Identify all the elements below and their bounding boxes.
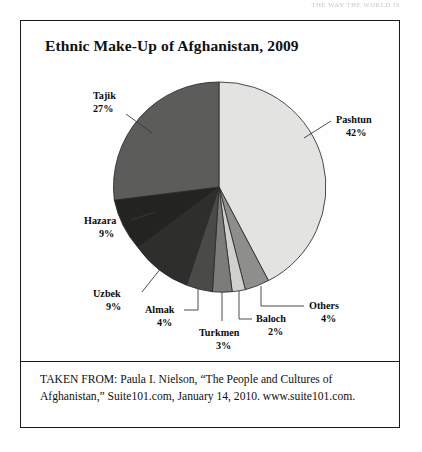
page-running-head: THE WAY THE WORLD IS bbox=[311, 1, 400, 9]
pie-value-turkmen: 3% bbox=[216, 340, 231, 351]
pie-label-pashtun: Pashtun bbox=[336, 114, 372, 125]
pie-label-tajik: Tajik bbox=[93, 90, 116, 101]
pie-label-hazara: Hazara bbox=[84, 215, 116, 226]
leader-line-baloch bbox=[239, 291, 252, 319]
pie-value-uzbek: 9% bbox=[106, 301, 121, 312]
pie-label-turkmen: Turkmen bbox=[199, 327, 240, 338]
figure-source-caption: TAKEN FROM: Paula I. Nielson, “The Peopl… bbox=[40, 371, 384, 406]
figure-frame: Ethnic Make-Up of Afghanistan, 2009 bbox=[20, 20, 400, 428]
pie-chart-svg: Tajik 27% Pashtun 42% Hazara 9% Uzbek 9%… bbox=[21, 21, 401, 361]
pie-value-tajik: 27% bbox=[93, 103, 113, 114]
pie-value-pashtun: 42% bbox=[346, 127, 366, 138]
pie-value-hazara: 9% bbox=[99, 228, 114, 239]
pie-value-others: 4% bbox=[321, 313, 336, 324]
pie-value-baloch: 2% bbox=[268, 326, 283, 337]
pie-label-baloch: Baloch bbox=[256, 313, 286, 324]
leader-line-others bbox=[261, 286, 304, 306]
leader-line-uzbek bbox=[142, 268, 161, 292]
pie-label-others: Others bbox=[309, 300, 339, 311]
pie-value-almak: 4% bbox=[157, 317, 172, 328]
leader-line-almak bbox=[184, 289, 198, 310]
pie-chart: Tajik 27% Pashtun 42% Hazara 9% Uzbek 9%… bbox=[21, 21, 401, 361]
pie-slice-tajik bbox=[113, 82, 219, 200]
pie-label-almak: Almak bbox=[145, 304, 175, 315]
pie-label-uzbek: Uzbek bbox=[93, 288, 121, 299]
pie-slices bbox=[113, 82, 325, 292]
caption-divider bbox=[21, 361, 399, 362]
